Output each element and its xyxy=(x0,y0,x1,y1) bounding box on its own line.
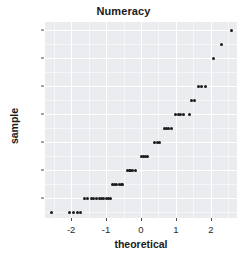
data-point xyxy=(68,211,71,214)
x-tick-mark xyxy=(141,218,142,221)
data-point xyxy=(204,85,207,88)
y-tick-mark xyxy=(41,58,44,59)
data-point xyxy=(230,29,233,32)
gridline-vertical-minor xyxy=(228,22,229,218)
gridline-vertical-minor xyxy=(54,22,55,218)
x-axis-title: theoretical xyxy=(45,238,237,250)
x-tick-label: 2 xyxy=(196,224,226,235)
gridline-vertical xyxy=(106,22,107,218)
plot-panel xyxy=(45,22,237,218)
data-point xyxy=(188,113,191,116)
x-tick-label: 0 xyxy=(126,224,156,235)
x-tick-mark xyxy=(176,218,177,221)
x-tick-mark xyxy=(211,218,212,221)
gridline-vertical xyxy=(211,22,212,218)
data-point xyxy=(50,211,53,214)
gridline-vertical xyxy=(141,22,142,218)
data-point xyxy=(170,127,173,130)
gridline-vertical xyxy=(176,22,177,218)
gridline-vertical xyxy=(71,22,72,218)
gridline-vertical-minor xyxy=(158,22,159,218)
x-tick-label: 1 xyxy=(161,224,191,235)
data-point xyxy=(220,43,223,46)
data-point xyxy=(79,211,82,214)
gridline-vertical-minor xyxy=(193,22,194,218)
y-tick-mark xyxy=(41,142,44,143)
chart-title: Numeracy xyxy=(0,5,247,17)
x-tick-mark xyxy=(106,218,107,221)
data-point xyxy=(212,57,215,60)
y-axis-title: sample xyxy=(8,76,20,176)
x-tick-label: -2 xyxy=(56,224,86,235)
x-tick-label: -1 xyxy=(91,224,121,235)
data-point xyxy=(182,113,185,116)
x-tick-mark xyxy=(71,218,72,221)
y-tick-mark xyxy=(41,198,44,199)
data-point xyxy=(193,99,196,102)
data-point xyxy=(146,155,149,158)
y-tick-mark xyxy=(41,30,44,31)
data-point xyxy=(134,169,137,172)
y-tick-mark xyxy=(41,114,44,115)
data-point xyxy=(200,85,203,88)
y-tick-mark xyxy=(41,170,44,171)
qq-plot-figure: Numeracy 2468101214-2-1012 theoretical s… xyxy=(0,0,247,268)
gridline-vertical-minor xyxy=(124,22,125,218)
y-tick-mark xyxy=(41,86,44,87)
data-point xyxy=(109,197,112,200)
data-point xyxy=(158,141,161,144)
gridline-vertical-minor xyxy=(89,22,90,218)
